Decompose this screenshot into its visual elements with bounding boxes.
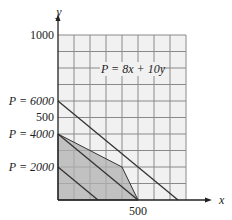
label-p2000: P = 2000 bbox=[8, 160, 54, 174]
objective-label: P = 8x + 10y bbox=[100, 62, 166, 76]
label-p4000: P = 4000 bbox=[8, 127, 54, 141]
label-p6000: P = 6000 bbox=[8, 94, 54, 108]
y-tick-1000: 1000 bbox=[30, 28, 54, 42]
x-axis-label: x bbox=[218, 193, 225, 207]
x-axis-arrow-icon bbox=[205, 198, 212, 203]
chart: y x 1000 500 500 P = 6000 P = 4000 P = 2… bbox=[0, 0, 232, 220]
y-axis-label: y bbox=[55, 5, 62, 19]
chart-svg: y x 1000 500 500 P = 6000 P = 4000 P = 2… bbox=[0, 0, 232, 220]
y-tick-500: 500 bbox=[36, 110, 54, 124]
x-tick-500: 500 bbox=[129, 204, 147, 218]
